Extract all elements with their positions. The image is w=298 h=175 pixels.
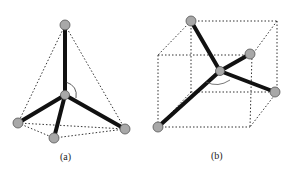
panel-b-label: (b) [211,150,223,161]
panel-b-cube [153,16,280,132]
panel-a-tetrahedron [13,20,130,143]
tetrahedral-bonding-figure [0,0,298,175]
panel-a-label: (a) [60,151,71,162]
tetrahedron-atoms [13,20,130,143]
tetrahedron-bonds [18,25,125,138]
